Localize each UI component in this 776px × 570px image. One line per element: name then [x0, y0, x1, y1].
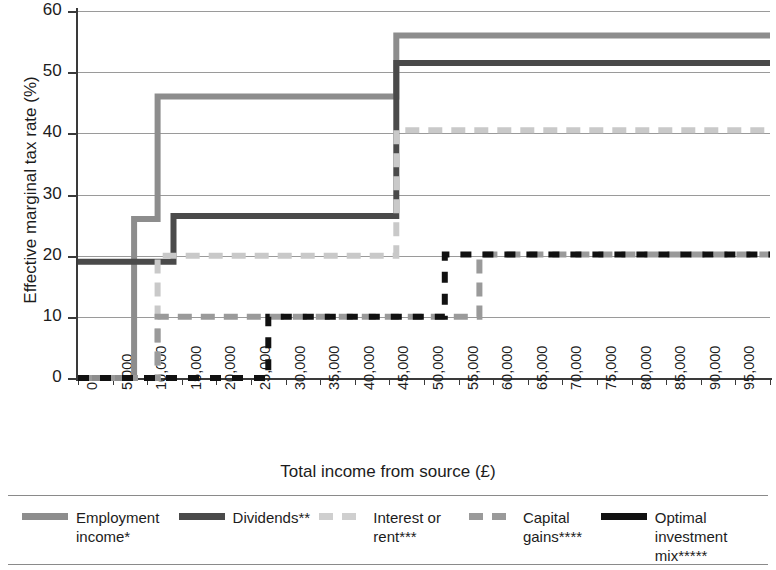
y-tick-20	[68, 256, 77, 258]
series-line-dividends	[78, 63, 770, 262]
y-tick-50	[68, 72, 77, 74]
legend-label-interest-or-rent: Interest orrent***	[373, 508, 441, 546]
series-line-employment	[78, 36, 770, 379]
legend-item-interest-or-rent[interactable]: Interest orrent***	[319, 508, 469, 546]
legend-label-line2: income*	[76, 527, 159, 546]
chart-figure: Effective marginal tax rate (%) 01020304…	[0, 0, 776, 570]
series-canvas	[0, 0, 776, 400]
legend-label-optimal-investment-mix: Optimal investmentmix*****	[655, 508, 768, 565]
legend-swatch-capital-gains	[469, 513, 515, 520]
legend-label-line2: mix*****	[655, 546, 768, 565]
legend-label-line1: Employment	[76, 508, 159, 527]
y-tick-40	[68, 133, 77, 135]
legend-label-line1: Optimal investment	[655, 508, 768, 546]
legend-swatch-employment-income	[22, 513, 68, 520]
legend-item-optimal-investment-mix[interactable]: Optimal investmentmix*****	[601, 508, 768, 565]
legend-swatch-interest-or-rent	[319, 513, 365, 520]
series-line-capital	[78, 254, 770, 378]
legend-label-line1: Capital	[523, 508, 582, 527]
legend-label-line1: Dividends**	[233, 508, 311, 527]
y-tick-60	[68, 11, 77, 13]
legend-item-dividends[interactable]: Dividends**	[179, 508, 320, 527]
y-tick-10	[68, 317, 77, 319]
legend-label-line2: gains****	[523, 527, 582, 546]
legend-swatch-optimal-investment-mix	[601, 513, 647, 520]
legend-label-line1: Interest or	[373, 508, 441, 527]
legend-label-employment-income: Employmentincome*	[76, 508, 159, 546]
legend-item-employment-income[interactable]: Employmentincome*	[8, 508, 179, 546]
legend-label-capital-gains: Capitalgains****	[523, 508, 582, 546]
legend-swatch-dividends	[179, 513, 225, 520]
y-tick-30	[68, 195, 77, 197]
x-axis-title: Total income from source (£)	[0, 462, 776, 482]
legend: Employmentincome*Dividends**Interest orr…	[8, 495, 768, 565]
legend-items: Employmentincome*Dividends**Interest orr…	[8, 496, 768, 562]
legend-label-line2: rent***	[373, 527, 441, 546]
legend-label-dividends: Dividends**	[233, 508, 311, 527]
legend-item-capital-gains[interactable]: Capitalgains****	[469, 508, 601, 546]
y-tick-0	[68, 378, 77, 380]
